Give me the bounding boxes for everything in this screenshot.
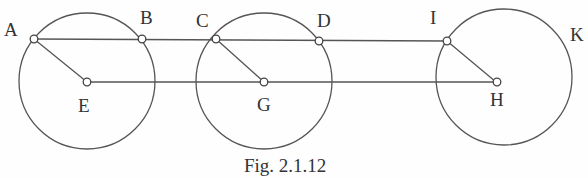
line-a-i bbox=[34, 39, 447, 41]
label-k: K bbox=[570, 24, 584, 45]
point-e bbox=[83, 78, 91, 86]
circle-h bbox=[436, 9, 572, 145]
figure: A B C D E G I K H Fig. 2.1.12 bbox=[0, 0, 588, 178]
point-i bbox=[443, 37, 451, 45]
label-i: I bbox=[430, 7, 436, 28]
figure-caption: Fig. 2.1.12 bbox=[244, 155, 326, 176]
label-b: B bbox=[140, 7, 153, 28]
segment-i-h bbox=[447, 41, 496, 82]
point-a bbox=[30, 35, 38, 43]
segment-c-g bbox=[216, 39, 264, 82]
point-h bbox=[493, 78, 501, 86]
point-d bbox=[315, 37, 323, 45]
diagram-canvas: A B C D E G I K H Fig. 2.1.12 bbox=[0, 0, 588, 178]
segment-a-e bbox=[34, 39, 87, 82]
label-h: H bbox=[490, 89, 504, 110]
point-g bbox=[260, 78, 268, 86]
label-g: G bbox=[257, 94, 271, 115]
label-a: A bbox=[4, 19, 18, 40]
point-b bbox=[138, 35, 146, 43]
label-c: C bbox=[196, 10, 209, 31]
label-e: E bbox=[78, 95, 90, 116]
label-d: D bbox=[317, 10, 331, 31]
point-c bbox=[212, 35, 220, 43]
